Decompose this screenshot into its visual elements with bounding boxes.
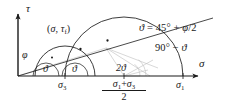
theta-relation-label: ϑ = 45° + φ/2	[139, 23, 197, 34]
tangent-point-medium	[79, 48, 81, 50]
fraction-numerator: σ1+σ3	[102, 79, 146, 90]
sigma3-label: σ3	[58, 80, 67, 91]
tangent-point-small	[51, 57, 53, 59]
circle-center-fraction: σ1+σ3 2	[102, 79, 146, 102]
complement-angle-label: 90° − ϑ	[155, 43, 187, 54]
tau-axis-label: τ	[26, 3, 30, 14]
sigma1-label: σ1	[176, 80, 185, 91]
sigma-axis-label: σ	[199, 58, 205, 69]
angle-two-theta-label: 2ϑ	[116, 63, 126, 73]
mohr-circle-figure: τ σ φ (σ, τf) ϑ = 45° + φ/2 90° − ϑ ϑ ϑ …	[0, 0, 225, 111]
stress-point-label: (σ, τf)	[47, 24, 70, 35]
friction-angle-label: φ	[22, 50, 28, 60]
stress-point-text: (σ, τf)	[47, 23, 70, 34]
angle-theta-right-label: ϑ	[72, 64, 77, 74]
fraction-denominator: 2	[102, 92, 146, 103]
construction-lines	[18, 48, 158, 76]
angle-theta-left-label: ϑ	[43, 64, 48, 74]
tangent-point-large	[106, 39, 108, 41]
